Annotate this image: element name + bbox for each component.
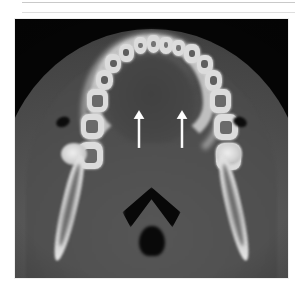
tooth-incisor-right-1-pulp	[164, 42, 168, 48]
tooth-premolar-left-2-pulp	[101, 76, 108, 84]
tooth-canine-right-pulp	[189, 50, 195, 57]
tooth-premolar-left-1-pulp	[110, 60, 117, 68]
tooth-premolar-left-2	[96, 70, 113, 91]
ct-image-canvas	[15, 19, 288, 278]
tooth-molar-left-1	[87, 89, 108, 112]
page-rule-top	[22, 2, 295, 3]
page-rule-second	[22, 12, 295, 13]
tooth-incisor-left-1	[147, 35, 161, 53]
tooth-molar-right-1-pulp	[215, 95, 226, 107]
tooth-molar-left-2-pulp	[86, 120, 98, 133]
tooth-canine-left	[119, 44, 134, 62]
tooth-incisor-left-1-pulp	[151, 41, 155, 47]
figure-page	[0, 0, 303, 293]
tooth-molar-right-2-pulp	[220, 121, 232, 134]
tooth-premolar-right-2-pulp	[210, 76, 217, 84]
posterior-airway-blob	[139, 226, 165, 256]
ct-scan-figure	[15, 19, 288, 278]
tooth-molar-right-1	[210, 89, 231, 112]
tooth-incisor-right-2-pulp	[176, 45, 180, 50]
tooth-premolar-right-1-pulp	[201, 60, 208, 68]
tooth-molar-left-2	[81, 114, 104, 140]
tooth-molar-left-1-pulp	[92, 95, 103, 107]
tooth-incisor-right-1	[159, 37, 173, 54]
tooth-canine-left-pulp	[123, 49, 129, 56]
tooth-incisor-left-2-pulp	[138, 43, 142, 48]
tooth-premolar-right-2	[205, 70, 222, 91]
